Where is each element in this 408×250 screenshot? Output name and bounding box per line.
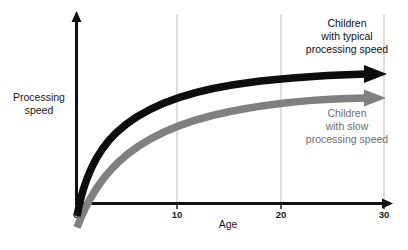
- x-tick-label-0: 0: [64, 209, 88, 220]
- x-tick-label-20: 20: [269, 209, 293, 220]
- x-tick-label-30: 30: [372, 209, 396, 220]
- processing-speed-chart: Processing speed Age 0 10 20 30 Children…: [0, 0, 408, 250]
- y-axis-title: Processing speed: [8, 91, 70, 116]
- series-label-slow: Children with slow processing speed: [292, 107, 402, 146]
- x-axis-title: Age: [198, 218, 258, 231]
- x-tick-label-10: 10: [165, 209, 189, 220]
- series-label-typical: Children with typical processing speed: [292, 17, 402, 56]
